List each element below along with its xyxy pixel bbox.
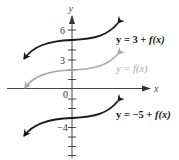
curve-3-plus-f-of-x bbox=[24, 23, 118, 59]
y-tick-label-6: 6 bbox=[60, 25, 65, 36]
y-tick-label-neg4: −4 bbox=[57, 122, 68, 133]
label-f-of-x: y = f(x) bbox=[115, 63, 148, 75]
origin-label: 0 bbox=[63, 89, 68, 100]
function-shift-graph: 6 3 0 −4 y x y = 3 + f(x) y = f(x) y = −… bbox=[0, 0, 179, 160]
curve-minus-5-plus-f-of-x bbox=[24, 101, 118, 136]
y-tick-label-3: 3 bbox=[60, 55, 65, 66]
graph-canvas: 6 3 0 −4 y x y = 3 + f(x) y = f(x) y = −… bbox=[0, 0, 179, 160]
y-axis-label: y bbox=[68, 3, 74, 14]
label-minus-5-plus-f-of-x: y = −5 + f(x) bbox=[116, 109, 171, 121]
label-3-plus-f-of-x: y = 3 + f(x) bbox=[116, 34, 165, 46]
x-axis-label: x bbox=[153, 83, 159, 94]
